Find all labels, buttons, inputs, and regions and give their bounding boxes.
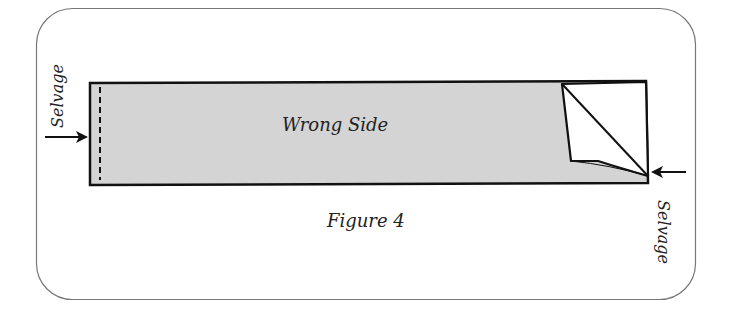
figure-caption: Figure 4 <box>327 210 405 231</box>
fabric-label: Wrong Side <box>282 114 388 135</box>
selvage-right-label: Selvage <box>654 200 673 264</box>
selvage-left-label: Selvage <box>48 64 67 128</box>
diagram-canvas <box>0 0 732 312</box>
